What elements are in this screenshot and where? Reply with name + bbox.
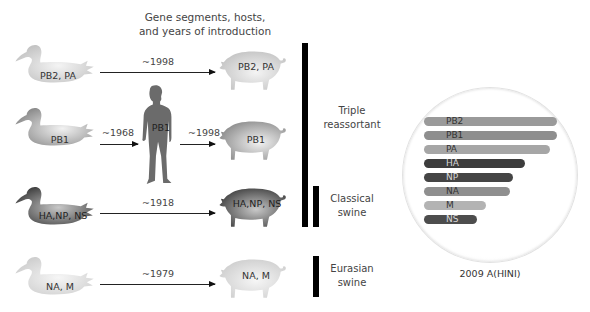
- duck-gene-label: NA, M: [30, 281, 90, 292]
- segment-bar-pa: PA: [424, 145, 550, 154]
- diagram-title: Gene segments, hosts, and years of intro…: [100, 10, 310, 38]
- human-icon: [136, 84, 178, 187]
- arrow: [100, 72, 215, 73]
- arrow: [180, 144, 215, 145]
- segment-bar-pb1: PB1: [424, 131, 557, 140]
- duck-gene-label: PB2, PA: [28, 70, 88, 81]
- duck-gene-label: HA,NP, NS: [30, 210, 96, 221]
- title-line-1: Gene segments, hosts,: [100, 10, 310, 24]
- pig-gene-label: PB2, PA: [226, 61, 286, 72]
- human-gene-label: PB1: [146, 122, 176, 133]
- pig-gene-label: HA,NP, NS: [224, 198, 290, 209]
- segment-bar-na: NA: [424, 187, 510, 196]
- segment-bar-np: NP: [424, 173, 513, 182]
- segment-bar-pb2: PB2: [424, 117, 557, 126]
- virus-caption: 2009 A(HINI): [430, 268, 550, 279]
- lineage-label-eurasian-swine: Eurasian swine: [307, 262, 397, 290]
- segment-bar-ha: HA: [424, 159, 525, 168]
- duck-icon: [12, 254, 98, 300]
- segment-bar-ns: NS: [424, 215, 477, 224]
- segment-bar-m: M: [424, 201, 486, 210]
- arrow: [100, 213, 215, 214]
- lineage-label-classical-swine: Classical swine: [307, 192, 397, 220]
- arrow: [100, 144, 138, 145]
- year-label: ~1918: [128, 197, 188, 208]
- pig-gene-label: PB1: [226, 134, 286, 145]
- duck-gene-label: PB1: [30, 134, 90, 145]
- lineage-label-triple-reassortant: Triple reassortant: [307, 104, 397, 132]
- year-label: ~1979: [128, 268, 188, 279]
- duck-icon: [12, 184, 98, 230]
- year-label: ~1998: [128, 56, 188, 67]
- duck-icon: [12, 42, 98, 88]
- pig-gene-label: NA, M: [226, 270, 286, 281]
- arrow: [100, 284, 215, 285]
- title-line-2: and years of introduction: [100, 24, 310, 38]
